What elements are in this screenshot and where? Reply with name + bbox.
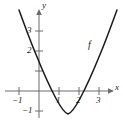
x-tick-label-3: 3 <box>96 96 101 105</box>
y-tick-label-3: 3 <box>27 26 32 35</box>
x-tick-label-2: 2 <box>76 96 81 105</box>
curve-label-f: f <box>88 40 91 50</box>
graph-figure: y x −1 1 2 3 3 2 −1 f <box>0 0 123 122</box>
y-tick-label-2: 2 <box>27 46 32 55</box>
x-tick-label-neg1: −1 <box>12 96 23 105</box>
x-axis-arrow-icon <box>108 88 114 94</box>
x-tick-label-1: 1 <box>56 96 61 105</box>
y-axis-arrow-icon <box>36 9 42 15</box>
x-axis-label: x <box>115 83 119 92</box>
y-tick-label-neg1: −1 <box>22 106 33 115</box>
y-axis-label: y <box>42 1 46 10</box>
parabola-curve <box>19 10 117 114</box>
